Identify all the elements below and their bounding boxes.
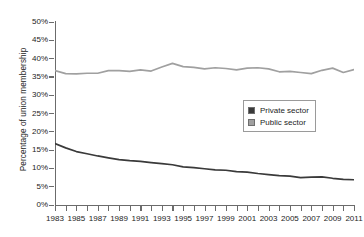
legend-item-private-sector[interactable]: Private sector (248, 104, 309, 116)
x-tick-mark (151, 206, 152, 211)
x-tick-mark (130, 206, 131, 211)
x-tick-mark (322, 206, 323, 211)
x-tick-mark (87, 206, 88, 211)
x-tick-mark (311, 206, 312, 211)
x-tick-mark (290, 206, 291, 211)
x-tick-mark (119, 206, 120, 211)
y-tick-mark (49, 58, 54, 59)
x-tick-mark (183, 206, 184, 211)
y-tick-label: 45% (14, 36, 48, 44)
x-tick-mark (269, 206, 270, 211)
x-tick-mark (333, 206, 334, 211)
x-tick-mark (205, 206, 206, 211)
y-tick-mark (49, 168, 54, 169)
x-tick-mark (172, 206, 173, 211)
y-tick-mark (49, 76, 54, 77)
x-tick-mark (76, 206, 77, 211)
x-tick-mark (108, 206, 109, 211)
x-tick-mark (301, 206, 302, 211)
y-tick-label: 5% (14, 183, 48, 191)
x-tick-mark (279, 206, 280, 211)
y-tick-mark (49, 205, 54, 206)
legend-item-public-sector[interactable]: Public sector (248, 116, 309, 128)
x-tick-mark (258, 206, 259, 211)
x-tick-mark (215, 206, 216, 211)
y-tick-label: 30% (14, 91, 48, 99)
y-tick-mark (49, 186, 54, 187)
y-tick-label: 0% (14, 201, 48, 209)
legend-swatch-icon (248, 119, 255, 126)
y-tick-label: 40% (14, 55, 48, 63)
x-tick-mark (55, 206, 56, 211)
y-tick-mark (49, 40, 54, 41)
x-tick-mark (162, 206, 163, 211)
x-tick-label: 2011 (334, 214, 364, 223)
y-axis-tick-labels: 50%45%40%35%30%25%20%15%10%5%0% (14, 0, 48, 237)
y-tick-mark (49, 95, 54, 96)
legend-label: Public sector (260, 118, 306, 127)
x-tick-mark (140, 206, 141, 211)
y-tick-label: 25% (14, 110, 48, 118)
y-tick-label: 15% (14, 146, 48, 154)
x-tick-mark (66, 206, 67, 211)
x-tick-mark (343, 206, 344, 211)
y-tick-label: 10% (14, 164, 48, 172)
y-tick-mark (49, 131, 54, 132)
chart-legend: Private sectorPublic sector (243, 100, 316, 132)
y-tick-label: 35% (14, 73, 48, 81)
y-tick-mark (49, 22, 54, 23)
series-line-public-sector (55, 63, 354, 74)
x-tick-mark (194, 206, 195, 211)
x-tick-mark (98, 206, 99, 211)
legend-swatch-icon (248, 107, 255, 114)
y-tick-label: 20% (14, 128, 48, 136)
series-line-private-sector (55, 144, 354, 180)
union-membership-line-chart: Percentage of union membership 50%45%40%… (0, 0, 364, 237)
y-tick-mark (49, 113, 54, 114)
x-tick-mark (247, 206, 248, 211)
y-tick-mark (49, 150, 54, 151)
x-tick-mark (354, 206, 355, 211)
x-tick-mark (226, 206, 227, 211)
legend-label: Private sector (260, 106, 309, 115)
x-tick-mark (237, 206, 238, 211)
y-tick-label: 50% (14, 18, 48, 26)
